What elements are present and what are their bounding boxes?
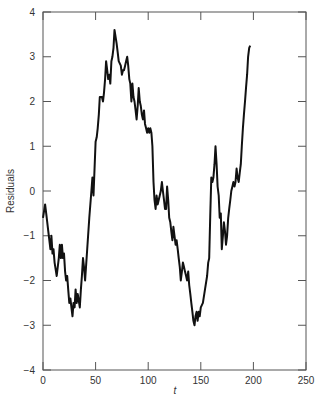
residuals-series-line [43, 30, 250, 325]
y-tick-label: −1 [24, 230, 36, 241]
x-axis-ticks: 050100150200250 [40, 12, 315, 386]
y-tick-label: −4 [24, 365, 36, 376]
y-axis-label: Residuals [5, 169, 16, 213]
y-tick-label: 4 [29, 7, 35, 18]
y-tick-label: −2 [24, 275, 36, 286]
x-tick-label: 50 [90, 375, 102, 386]
x-tick-label: 200 [245, 375, 262, 386]
y-axis-ticks: −4−3−2−101234 [24, 7, 306, 376]
y-tick-label: 0 [29, 186, 35, 197]
x-axis-label: t [174, 385, 178, 396]
x-tick-label: 150 [192, 375, 209, 386]
x-tick-label: 0 [40, 375, 46, 386]
y-tick-label: −3 [24, 320, 36, 331]
x-tick-label: 250 [298, 375, 315, 386]
y-tick-label: 3 [29, 51, 35, 62]
y-tick-label: 2 [29, 96, 35, 107]
residuals-line-chart: −4−3−2−101234 050100150200250 Residuals … [0, 0, 318, 399]
plot-frame [43, 12, 306, 370]
y-tick-label: 1 [29, 141, 35, 152]
x-tick-label: 100 [140, 375, 157, 386]
